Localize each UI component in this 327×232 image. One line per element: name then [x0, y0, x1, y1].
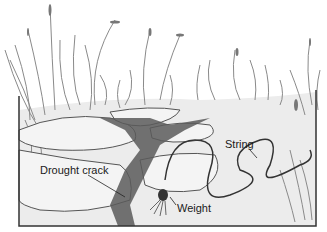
weight-shape [158, 189, 168, 201]
scene-drawing [0, 0, 327, 232]
label-string: String [225, 139, 254, 150]
label-weight: Weight [177, 203, 211, 214]
illustration: Drought crack String Weight [0, 0, 327, 232]
label-drought-crack: Drought crack [40, 165, 108, 176]
